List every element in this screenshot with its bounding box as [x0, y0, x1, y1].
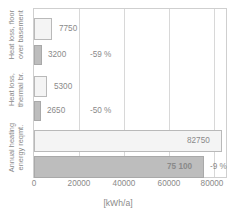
bar-value-floor-after: 3200	[48, 51, 66, 59]
x-axis-title: [kWh/a]	[0, 198, 236, 208]
change-label-thermal: -50 %	[90, 107, 111, 115]
bar-floor-before	[34, 18, 52, 40]
x-tick-20000: 20000	[68, 180, 91, 188]
category-label-line-2: energy reqmt.	[17, 123, 26, 172]
category-label-thermal-bridge: Heat loss, thermal br.	[0, 61, 33, 118]
x-tick-80000: 80000	[201, 180, 224, 188]
bar-value-annual-after: 75 100	[167, 163, 192, 171]
bar-thermal-before	[34, 76, 47, 97]
category-axis-labels: Heat loss, floor over basement Heat loss…	[0, 0, 33, 178]
category-label-line-2: thermal br.	[17, 72, 26, 107]
x-tick-60000: 60000	[158, 180, 181, 188]
category-label-line-2: over basement	[17, 10, 26, 59]
bar-floor-after	[34, 45, 42, 65]
x-tick-0: 0	[32, 180, 37, 188]
bar-value-thermal-after: 2650	[47, 107, 65, 115]
change-label-annual: -9 %	[210, 163, 227, 171]
x-tick-40000: 40000	[113, 180, 136, 188]
bar-thermal-after	[34, 101, 41, 121]
category-label-floor-over-basement: Heat loss, floor over basement	[0, 8, 33, 61]
change-label-floor: -59 %	[90, 51, 111, 59]
bar-value-thermal-before: 5300	[54, 83, 72, 91]
bar-value-floor-before: 7750	[59, 25, 77, 33]
bar-chart: Heat loss, floor over basement Heat loss…	[0, 0, 236, 219]
x-axis-ticks: 0 20000 40000 60000 80000	[0, 180, 236, 194]
bar-value-annual-before: 82750	[187, 137, 210, 145]
category-label-annual-heating: Annual heating energy reqmt.	[0, 118, 33, 178]
plot-area: 7750 3200 -59 % 5300 2650 -50 % 82750 75…	[33, 8, 227, 178]
